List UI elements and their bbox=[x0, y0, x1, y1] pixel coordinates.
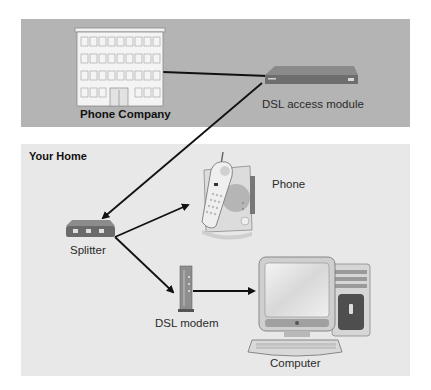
diagram-artwork bbox=[0, 0, 431, 390]
cordless-phone-icon bbox=[202, 152, 255, 240]
splitter-label: Splitter bbox=[70, 244, 106, 256]
dsl-modem-icon bbox=[178, 266, 194, 312]
dsl-access-module-icon bbox=[265, 66, 358, 84]
desktop-computer-icon bbox=[248, 257, 370, 356]
phone-company-building-icon bbox=[75, 28, 165, 106]
phone-label: Phone bbox=[272, 178, 305, 190]
your-home-title: Your Home bbox=[29, 150, 87, 162]
phone-company-label: Phone Company bbox=[80, 108, 171, 120]
dsl-modem-label: DSL modem bbox=[155, 317, 219, 329]
splitter-icon bbox=[66, 220, 115, 237]
computer-label: Computer bbox=[270, 357, 321, 369]
dsl-access-module-label: DSL access module bbox=[262, 98, 364, 110]
